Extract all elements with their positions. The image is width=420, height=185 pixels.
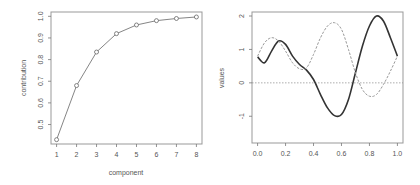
y-tick-label: 0.5 <box>37 120 44 130</box>
x-tick-label: 3 <box>95 151 99 158</box>
left-y-axis-label: contribution <box>20 60 27 96</box>
right-y-axis-label: values <box>218 67 225 88</box>
data-point-marker <box>55 138 59 142</box>
x-tick-label: 0.8 <box>365 150 375 157</box>
x-tick-label: 0.2 <box>281 150 291 157</box>
x-tick-label: 6 <box>155 151 159 158</box>
y-tick-label: 0.8 <box>37 55 44 65</box>
right-x-axis: 0.00.20.40.60.81.0 <box>253 143 403 157</box>
x-tick-label: 1 <box>55 151 59 158</box>
data-point-marker <box>194 15 198 19</box>
data-point-marker <box>174 16 178 20</box>
figure: 12345678 0.50.60.70.80.91.0 component co… <box>0 0 420 185</box>
y-tick-label: 1.0 <box>37 11 44 21</box>
data-point-marker <box>75 84 79 88</box>
x-tick-label: 4 <box>115 151 119 158</box>
y-tick-label: -1 <box>238 113 245 119</box>
data-point-marker <box>154 19 158 23</box>
y-tick-label: 1 <box>238 47 245 51</box>
right-series <box>252 16 403 117</box>
right-plot-box <box>252 12 403 143</box>
left-plot-box <box>51 12 202 144</box>
x-tick-label: 1.0 <box>393 150 403 157</box>
y-tick-label: 2 <box>238 14 245 18</box>
y-tick-label: 0.6 <box>37 98 44 108</box>
contribution-line <box>57 17 197 140</box>
x-tick-label: 7 <box>174 151 178 158</box>
dashed-series-line <box>258 23 398 97</box>
right-chart: 0.00.20.40.60.81.0 -1012 values <box>218 12 403 157</box>
x-tick-label: 8 <box>194 151 198 158</box>
y-tick-label: 0.9 <box>37 33 44 43</box>
solid-series-line <box>258 16 398 117</box>
x-tick-label: 0.4 <box>309 150 319 157</box>
x-tick-label: 0.0 <box>253 150 263 157</box>
left-x-axis-label: component <box>109 169 144 177</box>
data-point-marker <box>115 32 119 36</box>
data-point-marker <box>134 23 138 27</box>
right-y-axis: -1012 <box>238 14 252 119</box>
left-x-axis: 12345678 <box>55 144 199 158</box>
left-chart: 12345678 0.50.60.70.80.91.0 component co… <box>20 11 202 177</box>
x-tick-label: 0.6 <box>337 150 347 157</box>
left-series <box>55 15 199 142</box>
x-tick-label: 5 <box>135 151 139 158</box>
data-point-marker <box>95 50 99 54</box>
left-y-axis: 0.50.60.70.80.91.0 <box>37 11 51 129</box>
y-tick-label: 0.7 <box>37 76 44 86</box>
y-tick-label: 0 <box>238 81 245 85</box>
x-tick-label: 2 <box>75 151 79 158</box>
